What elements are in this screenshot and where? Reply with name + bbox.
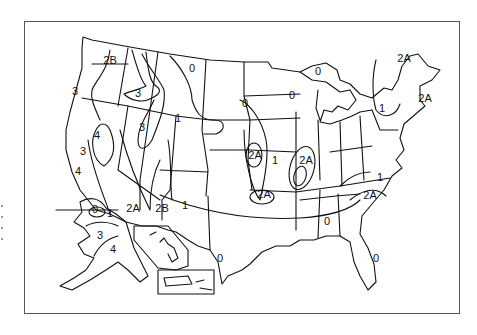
state-borders bbox=[82, 48, 398, 250]
zone-label: 3 bbox=[139, 121, 145, 133]
hawaii-islands bbox=[150, 232, 178, 262]
zone-label: 3 bbox=[135, 87, 141, 99]
zone-contour bbox=[92, 50, 114, 166]
zone-label: 2A bbox=[126, 202, 140, 214]
zone-label: 2A bbox=[418, 92, 432, 104]
zone-label: 0 bbox=[289, 89, 295, 101]
zone-label: 1 bbox=[182, 199, 188, 211]
zone-label: 0 bbox=[242, 97, 248, 109]
zone-label: 3 bbox=[80, 145, 86, 157]
zone-label: 0 bbox=[92, 203, 98, 215]
zone-label: 2B bbox=[155, 202, 168, 214]
zone-contour bbox=[124, 50, 159, 101]
zone-label: 3 bbox=[72, 85, 78, 97]
zone-label: 1 bbox=[175, 112, 181, 124]
zone-label: 1 bbox=[272, 154, 278, 166]
zone-label: 1 bbox=[377, 171, 383, 183]
zone-label: 2A bbox=[363, 189, 377, 201]
zone-contour bbox=[373, 60, 400, 116]
zone-label: 2A bbox=[257, 188, 271, 200]
seismic-zone-map: 2B0331433400012A2A2A12A2A2A100012B2A1034 bbox=[0, 0, 477, 335]
zone-label: 2A bbox=[248, 149, 262, 161]
zone-label: 0 bbox=[373, 252, 379, 264]
zone-contour-3-new-madrid bbox=[292, 165, 309, 187]
puerto-rico-island bbox=[164, 276, 212, 290]
zone-label: 3 bbox=[97, 229, 103, 241]
zone-labels: 2B0331433400012A2A2A12A2A2A100012B2A1034 bbox=[72, 52, 432, 264]
zone-label: 4 bbox=[94, 129, 100, 141]
zone-label: 2A bbox=[397, 52, 411, 64]
zone-label: 2A bbox=[299, 154, 313, 166]
zone-label: 0 bbox=[217, 252, 223, 264]
zone-label: 0 bbox=[315, 65, 321, 77]
us-outline bbox=[66, 37, 440, 290]
zone-label: 1 bbox=[107, 207, 113, 219]
zone-label: 1 bbox=[379, 102, 385, 114]
zone-label: 2B bbox=[103, 54, 116, 66]
zone-label: 4 bbox=[110, 243, 116, 255]
great-lakes bbox=[300, 72, 372, 124]
zone-label: 4 bbox=[75, 165, 81, 177]
puerto-rico-inset-border bbox=[158, 270, 214, 294]
zone-label: 0 bbox=[189, 62, 195, 74]
zone-label: 0 bbox=[324, 215, 330, 227]
zone-contour-2a-new-madrid bbox=[285, 144, 320, 193]
